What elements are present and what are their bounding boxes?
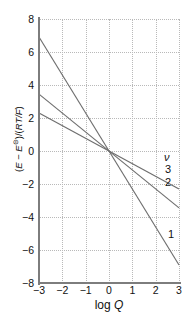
legend-title-nu: ν	[164, 152, 170, 163]
x-axis-title: log Q	[39, 299, 179, 312]
series-line-nu-3	[39, 113, 179, 189]
plot-area	[39, 19, 179, 283]
data-lines	[39, 19, 179, 283]
y-tick-label: −6	[0, 245, 34, 256]
series-label-1: 1	[168, 229, 174, 240]
y-axis-line	[38, 17, 40, 285]
nernst-plot-figure: 8 6 4 2 0 −2 −4 −6 −8 −3 −2 −1	[0, 0, 192, 321]
y-axis-title-text: (E − E⊝)/(RT/F)	[13, 106, 24, 172]
x-axis-title-prefix: log	[95, 298, 114, 312]
x-axis-title-variable: Q	[114, 298, 123, 312]
x-tick-label: 3	[168, 285, 190, 296]
x-tick-label: −3	[28, 285, 50, 296]
y-tick-label: −4	[0, 212, 34, 223]
y-tick-label: 6	[0, 47, 34, 58]
y-axis-title: (E − E⊝)/(RT/F)	[10, 84, 24, 194]
x-tick-label: −1	[75, 285, 97, 296]
series-label-3: 3	[165, 164, 171, 175]
x-tick-label: −2	[51, 285, 73, 296]
gridline-vertical	[179, 19, 180, 283]
y-tick-label: 8	[0, 14, 34, 25]
x-tick-label: 2	[145, 285, 167, 296]
x-tick-label: 0	[98, 285, 120, 296]
x-tick-label: 1	[121, 285, 143, 296]
series-label-2: 2	[165, 177, 171, 188]
